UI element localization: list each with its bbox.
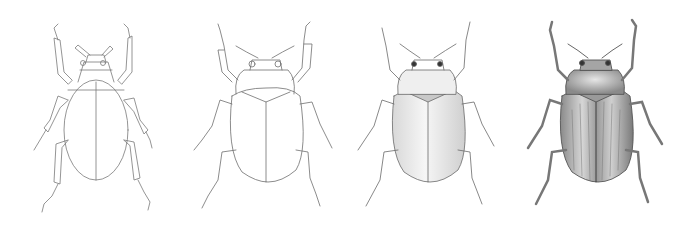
- beetle-sketch-light-shading: [336, 0, 502, 240]
- stage-3-light-shading: Light shading: [336, 0, 502, 240]
- beetle-sketch-construction: [0, 0, 172, 240]
- beetle-sketch-outline: [172, 0, 336, 240]
- stage-1-construction: Construction lines: [0, 0, 172, 240]
- stage-2-outline: Clean outline: [172, 0, 336, 240]
- stage-4-full-shading: Full shading: [502, 0, 677, 240]
- beetle-drawing-steps: Construction lines: [0, 0, 677, 240]
- beetle-sketch-full-shading: [502, 0, 677, 240]
